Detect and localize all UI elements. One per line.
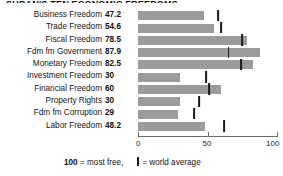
bar-plot-area (138, 84, 277, 96)
bar-row: Labor Freedom48.2 (0, 121, 283, 133)
x-axis-tick-label: 0 (136, 139, 140, 149)
world-average-marker-icon (240, 59, 242, 71)
bar-row-label: Business Freedom (34, 10, 102, 20)
bar-plot-area (138, 108, 277, 120)
bar-rows: Business Freedom47.2Trade Freedom54.6Fis… (0, 10, 283, 133)
world-average-marker-icon (208, 83, 210, 95)
value-bar (138, 11, 204, 20)
bar-row: Property Rights30 (0, 96, 283, 108)
bar-row-label: Fdm fm Corruption (34, 108, 102, 118)
bar-row-label: Fdm fm Government (27, 47, 102, 57)
economic-freedoms-chart: SUDAN'S TEN ECONOMIC FREEDOMS Business F… (0, 0, 283, 176)
bar-row-label: Property Rights (46, 96, 102, 106)
bar-row: Fdm fm Corruption29 (0, 108, 283, 120)
bar-row-value: 29 (105, 108, 114, 118)
bar-row-label: Fiscal Freedom (46, 35, 102, 45)
chart-footnote: 100 = most free,= world average (64, 157, 201, 168)
bar-row-value: 54.6 (105, 22, 121, 32)
bar-row-value: 60 (105, 84, 114, 94)
bar-plot-area (138, 35, 277, 47)
chart-title-clipped: SUDAN'S TEN ECONOMIC FREEDOMS (6, 0, 196, 3)
world-average-marker-icon (193, 108, 195, 120)
bar-row-label: Investment Freedom (27, 71, 102, 81)
bar-plot-area (138, 96, 277, 108)
bar-plot-area (138, 59, 277, 71)
world-average-marker-icon (228, 47, 230, 59)
bar-row-value: 82.5 (105, 59, 121, 69)
bar-row-value: 30 (105, 71, 114, 81)
bar-row-label: Trade Freedom (46, 22, 102, 32)
bar-plot-area (138, 10, 277, 22)
bar-row-value: 30 (105, 96, 114, 106)
world-average-marker-icon (198, 96, 200, 108)
bar-row-label: Monetary Freedom (33, 59, 102, 69)
bar-row: Business Freedom47.2 (0, 10, 283, 22)
value-bar (138, 73, 180, 82)
bar-row: Financial Freedom60 (0, 84, 283, 96)
bar-plot-area (138, 71, 277, 83)
bar-row-value: 87.9 (105, 47, 121, 57)
value-bar (138, 48, 260, 57)
bar-row-label: Labor Freedom (46, 121, 102, 131)
value-bar (138, 24, 214, 33)
world-average-marker-icon (205, 71, 207, 83)
world-average-legend-marker-icon (137, 157, 139, 166)
bar-row: Trade Freedom54.6 (0, 22, 283, 34)
value-bar (138, 36, 247, 45)
x-axis-tick-label: 50 (203, 139, 212, 149)
world-average-marker-icon (217, 10, 219, 22)
world-average-marker-icon (223, 120, 225, 132)
footnote-lead: 100 (64, 158, 78, 167)
x-axis-tick (138, 132, 139, 137)
value-bar (138, 110, 178, 119)
x-axis-tick (208, 132, 209, 137)
footnote-tail: = world average (142, 158, 200, 167)
world-average-marker-icon (220, 22, 222, 34)
bar-row: Fdm fm Government87.9 (0, 47, 283, 59)
bar-row-value: 78.5 (105, 35, 121, 45)
bar-row-value: 47.2 (105, 10, 121, 20)
x-axis-tick-label: 100 (266, 139, 279, 149)
x-axis-tick (277, 132, 278, 137)
bar-plot-area (138, 47, 277, 59)
bar-row-value: 48.2 (105, 121, 121, 131)
bar-row-label: Financial Freedom (34, 84, 102, 94)
value-bar (138, 122, 205, 131)
footnote-mid: = most free, (78, 158, 124, 167)
bar-row: Investment Freedom30 (0, 71, 283, 83)
value-bar (138, 97, 180, 106)
value-bar (138, 60, 253, 69)
bar-row: Monetary Freedom82.5 (0, 59, 283, 71)
bar-plot-area (138, 22, 277, 34)
world-average-marker-icon (241, 34, 243, 46)
bar-row: Fiscal Freedom78.5 (0, 35, 283, 47)
